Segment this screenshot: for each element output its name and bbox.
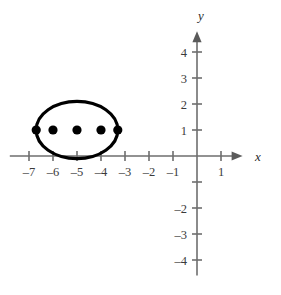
y-tick-label: –4	[174, 254, 188, 268]
data-point-center	[72, 125, 81, 134]
x-tick-label: –5	[70, 165, 84, 179]
x-axis-label: x	[254, 149, 261, 164]
axes-group	[10, 31, 243, 275]
x-tick-label: –2	[142, 165, 156, 179]
y-tick-label: –2	[174, 202, 188, 216]
x-tick-label: –1	[166, 165, 180, 179]
x-tick-label: –7	[22, 165, 36, 179]
y-tick-label: 4	[181, 46, 188, 60]
y-axis-label: y	[196, 8, 204, 23]
data-points-group	[32, 125, 123, 134]
data-point-focus	[96, 125, 105, 134]
y-tick-label: 2	[181, 98, 187, 112]
coordinate-plane: –7–6–5–4–3–2–114321–2–3–4 x y	[0, 0, 281, 295]
data-point-focus	[48, 125, 57, 134]
x-tick-label: –6	[46, 165, 60, 179]
y-axis-arrow-icon	[192, 31, 201, 42]
x-axis-arrow-icon	[232, 151, 243, 160]
x-tick-label: 1	[218, 165, 224, 179]
ellipse-graph-figure: –7–6–5–4–3–2–114321–2–3–4 x y	[0, 0, 281, 295]
y-tick-label: 3	[181, 72, 187, 86]
data-point-vertex	[113, 125, 122, 134]
x-tick-label: –3	[118, 165, 132, 179]
y-tick-label: 1	[181, 124, 187, 138]
data-point-vertex	[32, 125, 41, 134]
y-tick-label: –3	[174, 228, 188, 242]
x-tick-label: –4	[94, 165, 108, 179]
